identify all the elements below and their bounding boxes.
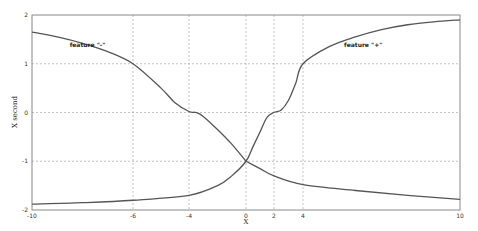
x-tick-label: 4 [301, 212, 305, 219]
curve-line [246, 161, 460, 199]
y-axis-ticks: -2-1012 [22, 11, 28, 213]
line-chart: -10-6-402410 -2-1012 feature "-"feature … [0, 0, 478, 231]
y-axis-label: X second [11, 95, 19, 128]
x-tick-label: 2 [272, 212, 276, 219]
y-tick-label: 1 [24, 60, 28, 67]
x-tick-label: -6 [130, 212, 136, 219]
x-tick-label: -4 [186, 212, 192, 219]
curve-line [32, 32, 246, 161]
y-tick-label: 2 [24, 11, 28, 18]
x-axis-label: X [244, 218, 249, 226]
y-tick-label: -2 [22, 206, 28, 213]
x-tick-label: -10 [27, 212, 37, 219]
feature-annotation: feature "+" [344, 41, 382, 48]
y-tick-label: -1 [22, 157, 28, 164]
x-tick-label: 10 [456, 212, 464, 219]
y-tick-label: 0 [24, 109, 28, 116]
feature-annotation: feature "-" [70, 41, 106, 48]
